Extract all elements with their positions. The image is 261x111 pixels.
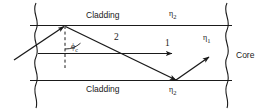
reflected-ray-exit (176, 57, 209, 80)
core-label: Core (236, 51, 254, 60)
critical-angle-label: ϕc (71, 43, 78, 53)
refractive-index-cladding-bottom-label: η2 (169, 86, 176, 96)
optical-fiber-diagram: Cladding Cladding Core η2 η1 η2 2 1 ϕc (0, 0, 261, 111)
right-break-line (226, 3, 229, 108)
left-break-line (35, 3, 38, 108)
eta-subscript-bottom: 2 (173, 89, 176, 96)
eta-subscript-core: 1 (207, 37, 210, 44)
refractive-index-core-label: η1 (203, 34, 210, 44)
cladding-bottom-label: Cladding (86, 85, 120, 94)
ray-two-label: 2 (114, 33, 119, 43)
diagram-canvas (0, 0, 261, 111)
incident-ray (14, 27, 64, 61)
refractive-index-cladding-top-label: η2 (169, 10, 176, 20)
cladding-top-label: Cladding (86, 11, 120, 20)
phi-subscript: c (75, 47, 78, 53)
eta-subscript-top: 2 (173, 13, 176, 20)
ray-one-label: 1 (165, 39, 170, 49)
